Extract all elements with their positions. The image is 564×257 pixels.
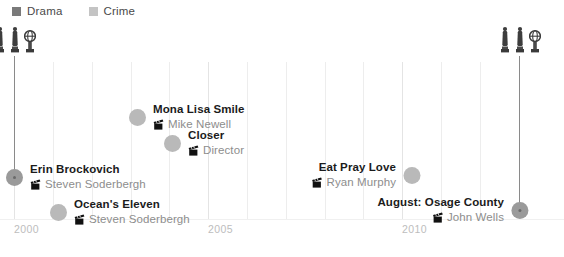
- x-tick-label: 2010: [402, 223, 427, 235]
- film-director: John Wells: [447, 211, 504, 225]
- clapperboard-icon: [188, 145, 199, 156]
- film-dot[interactable]: [511, 202, 528, 219]
- film-text: Ocean's ElevenSteven Soderbergh: [74, 198, 190, 226]
- legend-label: Drama: [27, 6, 63, 18]
- film-dot[interactable]: [403, 167, 420, 184]
- film-august-osage-county[interactable]: August: Osage CountyJohn Wells: [377, 196, 528, 224]
- film-text: CloserDirector: [188, 129, 244, 157]
- legend-label: Crime: [104, 6, 136, 18]
- trophy-row: [499, 26, 544, 53]
- trophy-caption-row: Academy AwardAcademy AwardGolden Globe: [0, 55, 39, 75]
- film-title: Erin Brockovich: [30, 163, 146, 177]
- trophy-caption: Golden Globe: [26, 55, 39, 75]
- trophy-caption: Academy Award: [499, 55, 512, 75]
- gridline: [131, 62, 132, 219]
- awards-2000[interactable]: Academy AwardAcademy AwardGolden Globe: [0, 26, 39, 75]
- clapperboard-icon: [153, 119, 164, 130]
- timeline-chart: DramaCrime 200020052010 Academy AwardAca…: [0, 0, 564, 257]
- film-title: August: Osage County: [377, 196, 504, 210]
- oscar-trophy-icon: [0, 26, 6, 53]
- plot-area: 200020052010 Academy AwardAcademy AwardG…: [0, 0, 564, 257]
- x-tick-label: 2005: [208, 223, 233, 235]
- legend-swatch-icon: [12, 7, 21, 16]
- film-closer[interactable]: CloserDirector: [164, 129, 244, 157]
- film-director: Steven Soderbergh: [45, 178, 146, 192]
- film-director-row: Director: [188, 144, 244, 158]
- film-title: Closer: [188, 129, 244, 143]
- oscar-trophy-icon: [9, 26, 21, 53]
- film-dot[interactable]: [50, 204, 67, 221]
- film-erin-brockovich[interactable]: Erin BrockovichSteven Soderbergh: [6, 163, 146, 191]
- film-dot[interactable]: [6, 169, 23, 186]
- film-title: Eat Pray Love: [312, 161, 397, 175]
- golden-globe-trophy-icon: [24, 26, 36, 53]
- trophy-caption: Academy Award: [515, 55, 528, 75]
- gridline: [247, 62, 248, 219]
- gridline: [53, 62, 54, 219]
- film-text: Erin BrockovichSteven Soderbergh: [30, 163, 146, 191]
- clapperboard-icon: [74, 214, 85, 225]
- clapperboard-icon: [432, 212, 443, 223]
- trophy-caption: Academy Award: [10, 55, 23, 75]
- chart-legend: DramaCrime: [12, 6, 135, 18]
- legend-item-crime[interactable]: Crime: [89, 6, 136, 18]
- gridline: [286, 62, 287, 219]
- awards-2013[interactable]: Academy AwardAcademy AwardGolden Globe: [499, 26, 544, 75]
- clapperboard-icon: [30, 179, 41, 190]
- film-dot[interactable]: [129, 109, 146, 126]
- film-director: Director: [203, 144, 244, 158]
- film-oceans-eleven[interactable]: Ocean's ElevenSteven Soderbergh: [50, 198, 190, 226]
- oscar-trophy-icon: [499, 26, 511, 53]
- film-eat-pray-love[interactable]: Eat Pray LoveRyan Murphy: [312, 161, 421, 189]
- trophy-caption: Golden Globe: [531, 55, 544, 75]
- film-dot[interactable]: [164, 135, 181, 152]
- film-text: Eat Pray LoveRyan Murphy: [312, 161, 397, 189]
- gridline: [92, 62, 93, 219]
- film-title: Mona Lisa Smile: [153, 103, 245, 117]
- film-director-row: Ryan Murphy: [312, 176, 397, 190]
- gridline: [325, 62, 326, 219]
- legend-swatch-icon: [89, 7, 98, 16]
- film-text: August: Osage CountyJohn Wells: [377, 196, 504, 224]
- clapperboard-icon: [312, 177, 323, 188]
- film-director-row: Steven Soderbergh: [74, 213, 190, 227]
- legend-item-drama[interactable]: Drama: [12, 6, 63, 18]
- film-director-row: Steven Soderbergh: [30, 178, 146, 192]
- film-director: Ryan Murphy: [327, 176, 397, 190]
- trophy-caption-row: Academy AwardAcademy AwardGolden Globe: [499, 55, 544, 75]
- gridline: [363, 62, 364, 219]
- trophy-caption: Academy Award: [0, 55, 7, 75]
- golden-globe-trophy-icon: [529, 26, 541, 53]
- trophy-row: [0, 26, 39, 53]
- film-title: Ocean's Eleven: [74, 198, 190, 212]
- oscar-trophy-icon: [514, 26, 526, 53]
- x-tick-label: 2000: [14, 223, 39, 235]
- film-mona-lisa-smile[interactable]: Mona Lisa SmileMike Newell: [129, 103, 245, 131]
- film-text: Mona Lisa SmileMike Newell: [153, 103, 245, 131]
- award-stem: [519, 56, 520, 205]
- film-director: Steven Soderbergh: [89, 213, 190, 227]
- film-director-row: John Wells: [377, 211, 504, 225]
